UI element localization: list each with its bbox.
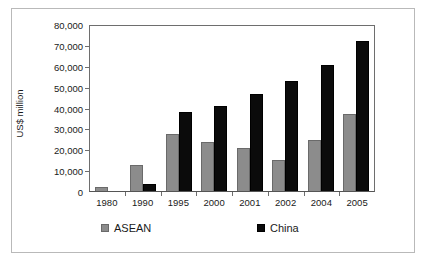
y-tick-label: 60,000 bbox=[54, 61, 83, 72]
x-tick-label-2005: 2005 bbox=[339, 197, 375, 208]
x-tick-label-2001: 2001 bbox=[232, 197, 268, 208]
x-axis-tick bbox=[268, 192, 269, 196]
x-axis-tick bbox=[232, 192, 233, 196]
y-tick-label: 40,000 bbox=[54, 103, 83, 114]
bar-asean-1980 bbox=[95, 187, 108, 191]
y-tick-label: 80,000 bbox=[54, 20, 83, 31]
bar-china-2000 bbox=[214, 106, 227, 191]
legend-label-china: China bbox=[270, 222, 299, 234]
bar-asean-2005 bbox=[343, 114, 356, 191]
bar-asean-1990 bbox=[130, 165, 143, 191]
bar-asean-2000 bbox=[201, 142, 214, 191]
square-gray-icon bbox=[101, 224, 109, 232]
x-axis-tick bbox=[304, 192, 305, 196]
x-axis-tick bbox=[125, 192, 126, 196]
square-black-icon bbox=[257, 224, 265, 232]
y-tick-label: 50,000 bbox=[54, 82, 83, 93]
plot-area bbox=[89, 25, 375, 192]
bar-china-2004 bbox=[321, 65, 334, 191]
bar-asean-1995 bbox=[166, 134, 179, 191]
y-axis-tick-labels: 80,000 70,000 60,000 50,000 40,000 30,00… bbox=[30, 0, 83, 263]
bar-asean-2001 bbox=[237, 148, 250, 191]
y-tick-label: 10,000 bbox=[54, 166, 83, 177]
bar-group-2004 bbox=[303, 26, 339, 191]
bar-group-1980 bbox=[90, 26, 126, 191]
legend-item-china: China bbox=[257, 222, 299, 234]
y-tick-label: 70,000 bbox=[54, 40, 83, 51]
bar-group-2005 bbox=[339, 26, 375, 191]
bar-china-2002 bbox=[285, 81, 298, 191]
legend-label-asean: ASEAN bbox=[114, 222, 151, 234]
bar-china-1990 bbox=[143, 184, 156, 191]
bar-group-1990 bbox=[126, 26, 162, 191]
y-tick-label: 30,000 bbox=[54, 124, 83, 135]
x-tick-label-2004: 2004 bbox=[304, 197, 340, 208]
bar-asean-2002 bbox=[272, 160, 285, 191]
chart-legend: ASEAN China bbox=[89, 222, 375, 238]
y-tick-label: 0 bbox=[78, 187, 83, 198]
x-axis-tick bbox=[161, 192, 162, 196]
bar-china-2005 bbox=[356, 41, 369, 191]
bar-group-2000 bbox=[197, 26, 233, 191]
x-tick-label-2002: 2002 bbox=[268, 197, 304, 208]
x-axis-tick bbox=[196, 192, 197, 196]
bar-group-1995 bbox=[161, 26, 197, 191]
legend-item-asean: ASEAN bbox=[101, 222, 151, 234]
bar-group-2002 bbox=[268, 26, 304, 191]
y-axis-title: US$ million bbox=[14, 69, 25, 159]
bar-asean-2004 bbox=[308, 140, 321, 191]
bar-group-2001 bbox=[232, 26, 268, 191]
chart-figure: US$ million 80,000 70,000 60,000 50,000 … bbox=[0, 0, 426, 263]
x-tick-label-2000: 2000 bbox=[196, 197, 232, 208]
x-tick-label-1980: 1980 bbox=[89, 197, 125, 208]
bar-china-2001 bbox=[250, 94, 263, 191]
x-tick-label-1990: 1990 bbox=[125, 197, 161, 208]
x-axis-tick bbox=[339, 192, 340, 196]
plot-wrapper: US$ million 80,000 70,000 60,000 50,000 … bbox=[0, 0, 426, 263]
bar-groups bbox=[90, 26, 374, 191]
x-axis-tick-labels: 1980 1990 1995 2000 2001 2002 2004 2005 bbox=[89, 197, 375, 208]
bar-china-1995 bbox=[179, 112, 192, 191]
y-tick-label: 20,000 bbox=[54, 145, 83, 156]
x-tick-label-1995: 1995 bbox=[161, 197, 197, 208]
